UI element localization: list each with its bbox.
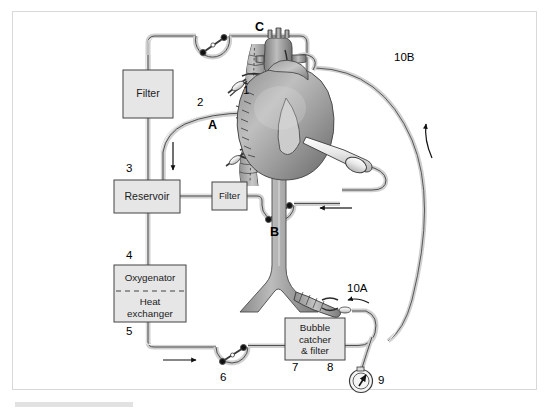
descending-aorta (240, 170, 318, 312)
callout-3: 3 (126, 163, 132, 175)
callout-10b: 10B (394, 52, 414, 64)
caption-placeholder-bar (15, 402, 133, 407)
callout-b: B (270, 226, 279, 239)
callout-c: C (255, 21, 264, 34)
aortic-cannula-10a (294, 292, 351, 317)
pressure-gauge-9 (350, 367, 373, 393)
callout-1: 1 (243, 85, 249, 97)
filter-side-label: Filter (212, 190, 247, 202)
callout-6: 6 (220, 372, 226, 384)
oxygenator-label: Oxygenator (114, 272, 186, 284)
roller-pump-6 (216, 345, 248, 365)
cpb-circuit-diagram (0, 0, 550, 415)
tube-oxy-out (146, 322, 216, 347)
flow-arrow-10a-in (348, 299, 369, 303)
roller-pump-c (196, 35, 230, 58)
callout-9: 9 (378, 375, 384, 387)
callout-8: 8 (327, 362, 333, 374)
tube-reservoir-to-oxy (146, 213, 148, 265)
callout-5: 5 (126, 326, 132, 338)
callout-10a: 10A (347, 283, 367, 295)
flow-arrow-10b-up (426, 124, 432, 158)
figure-root: Filter Reservoir Filter Oxygenator Heat … (0, 0, 550, 415)
tube-pump6-to-bubblecatcher (248, 343, 285, 345)
tube-line-a-venous (161, 111, 248, 181)
filter-top-label: Filter (123, 88, 173, 100)
callout-7: 7 (292, 362, 298, 374)
callout-4: 4 (126, 250, 132, 262)
heat-exchanger-label: Heat exchanger (114, 296, 186, 319)
callout-a: A (208, 119, 217, 132)
heart-illustration (226, 28, 372, 317)
tube-pump-b-out (294, 201, 340, 203)
callout-2: 2 (197, 97, 203, 109)
bubble-catcher-label: Bubble catcher & filter (285, 322, 345, 357)
reservoir-label: Reservoir (114, 191, 180, 203)
